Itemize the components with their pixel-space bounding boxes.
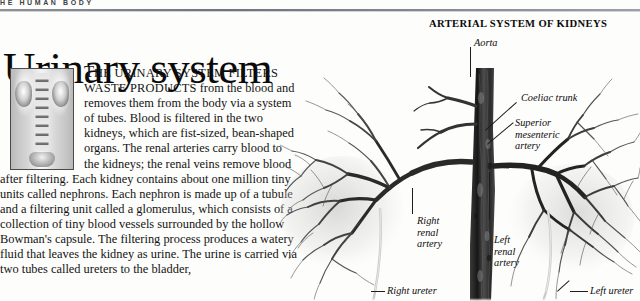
leader-right-ureter <box>371 291 385 292</box>
leader-aorta <box>470 47 471 77</box>
label-right-renal-artery: Right renal artery <box>417 215 442 250</box>
label-right-ureter: Right ureter <box>387 285 437 297</box>
figure-title-arterial-system: ARTERIAL SYSTEM OF KIDNEYS <box>429 18 607 29</box>
label-left-ureter: Left ureter <box>590 285 633 297</box>
label-aorta: Aorta <box>474 37 497 49</box>
drop-cap: T <box>84 62 94 81</box>
thumbnail-text-wrap-spacer <box>10 68 76 168</box>
page-canvas: HE HUMAN BODY Urinary system ARTERIAL SY… <box>0 0 640 301</box>
leader-left-renal-artery <box>489 172 490 220</box>
label-left-renal-artery: Left renal artery <box>494 234 519 269</box>
leader-right-renal-artery <box>412 188 413 214</box>
label-superior-mesenteric-artery: Superior mesenteric artery <box>515 117 560 152</box>
renal-arteriogram-image <box>280 40 640 301</box>
article-body: THE URINARY SYSTEM FILTERS WASTE PRODUCT… <box>0 66 300 277</box>
running-head: HE HUMAN BODY <box>0 0 300 6</box>
leader-left-ureter <box>570 291 588 292</box>
label-coeliac-trunk: Coeliac trunk <box>521 92 577 104</box>
header-rule-hairline <box>0 11 640 12</box>
